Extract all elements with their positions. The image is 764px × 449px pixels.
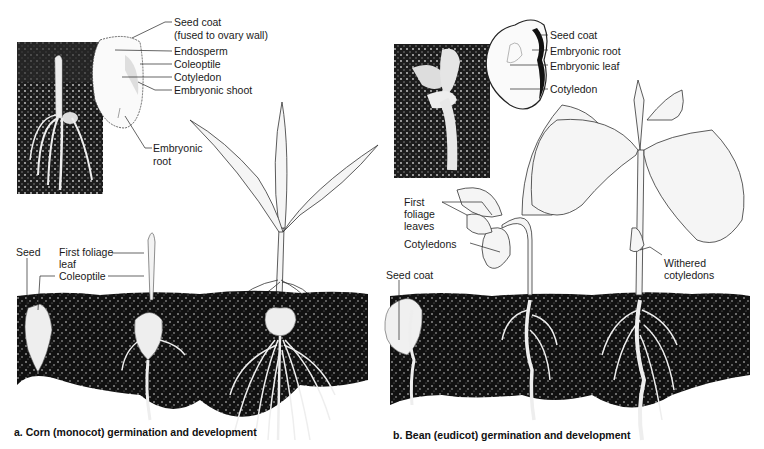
label-seed-coat: Seed coat — [550, 29, 597, 41]
label-withered-cotyledons-2: cotyledons — [664, 269, 714, 281]
label-cotyledon-kernel: Cotyledon — [174, 71, 221, 83]
corn-seedling-photo — [17, 42, 103, 194]
label-first-foliage-leaves: First — [404, 196, 424, 208]
label-first-foliage-leaf-2: leaf — [59, 258, 76, 270]
caption-bean: b. Bean (eudicot) germination and develo… — [393, 429, 630, 441]
label-seed-coat-stage: Seed coat — [386, 269, 433, 281]
panel-bean-eudicot: Seed coat Embryonic root Embryonic leaf … — [382, 0, 764, 449]
label-seed-coat: Seed coat — [174, 16, 221, 28]
bean-seed-cross-section — [486, 20, 547, 109]
label-coleoptile-kernel: Coleoptile — [174, 58, 221, 70]
label-coleoptile-stage: Coleoptile — [59, 270, 106, 282]
label-embryonic-leaf: Embryonic leaf — [550, 60, 619, 72]
label-embryonic-root: Embryonic root — [550, 45, 621, 57]
label-seed-coat-note: (fused to ovary wall) — [174, 29, 268, 41]
label-seed: Seed — [16, 246, 41, 258]
mature-corn-plant — [190, 102, 378, 300]
bean-seedling-photo — [394, 44, 490, 178]
soil-layer-bean — [390, 292, 750, 407]
label-cotyledon: Cotyledon — [550, 83, 597, 95]
label-endosperm: Endosperm — [174, 45, 228, 57]
soil-layer-corn — [17, 291, 368, 417]
label-first-foliage-leaves-3: leaves — [404, 220, 434, 232]
panel-corn-monocot: Seed coat (fused to ovary wall) Endosper… — [0, 0, 382, 449]
label-first-foliage-leaves-2: foliage — [404, 208, 435, 220]
label-embryonic-root-2: root — [153, 155, 171, 167]
label-embryonic-shoot: Embryonic shoot — [174, 84, 252, 96]
label-withered-cotyledons: Withered — [664, 257, 706, 269]
label-embryonic-root: Embryonic — [153, 142, 203, 154]
label-first-foliage-leaf: First foliage — [59, 246, 113, 258]
label-cotyledons: Cotyledons — [404, 238, 457, 250]
caption-corn: a. Corn (monocot) germination and develo… — [14, 426, 257, 438]
